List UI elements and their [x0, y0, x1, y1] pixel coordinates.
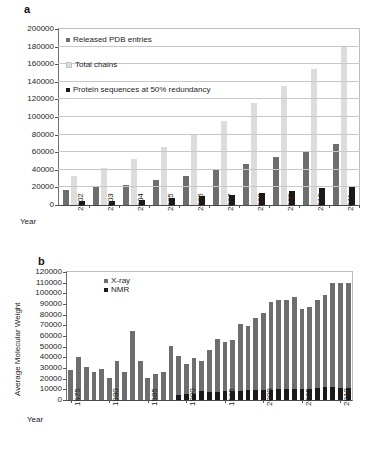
- x-tick-label: 1995: [228, 388, 236, 406]
- panel-b-legend: X-ray NMR: [104, 277, 164, 297]
- x-tick-label: 1975: [74, 388, 82, 406]
- bar-x-ray-1987: [161, 372, 166, 400]
- y-tick-label: 20000: [0, 183, 54, 191]
- y-tick-label: 100000: [0, 113, 54, 121]
- bar-released-pdb-entries-2002: [63, 190, 69, 205]
- y-tick-mark: [63, 315, 66, 316]
- y-tick-mark: [55, 170, 58, 171]
- legend-swatch-icon: [66, 62, 72, 68]
- panel-a-x-axis-name: Year: [20, 218, 36, 226]
- x-tick-label: 2006: [197, 193, 205, 211]
- x-tick-mark: [225, 400, 226, 403]
- y-tick-label: 140000: [0, 78, 54, 86]
- x-tick-mark: [148, 400, 149, 403]
- gridline: [58, 151, 360, 152]
- bar-x-ray-2003: [284, 300, 289, 400]
- y-tick-mark: [55, 47, 58, 48]
- y-tick-label: 110000: [7, 279, 62, 287]
- legend-swatch-icon: [104, 279, 108, 283]
- bar-total-chains-2011: [341, 46, 347, 205]
- y-tick-label: 100000: [7, 289, 62, 297]
- legend-label: Protein sequences at 50% redundancy: [73, 86, 210, 94]
- y-tick-label: 120000: [0, 95, 54, 103]
- legend-label: X-ray: [111, 277, 130, 285]
- bar-nmr-2008: [323, 387, 328, 400]
- x-tick-label: 2009: [287, 193, 295, 211]
- y-tick-mark: [63, 336, 66, 337]
- y-tick-mark: [55, 64, 58, 65]
- bar-nmr-1998: [246, 390, 251, 400]
- x-tick-label: 2010: [343, 388, 351, 406]
- bar-x-ray-2002: [276, 300, 281, 400]
- x-tick-mark: [299, 205, 300, 208]
- y-tick-mark: [63, 283, 66, 284]
- bar-x-ray-1999: [253, 318, 258, 400]
- legend-swatch-icon: [66, 88, 70, 92]
- panel-b-x-axis-name: Year: [27, 416, 43, 424]
- y-tick-mark: [55, 99, 58, 100]
- legend-item-protein-sequences-50: Protein sequences at 50% redundancy: [66, 86, 210, 94]
- y-tick-label: 160000: [0, 60, 54, 68]
- x-tick-mark: [302, 400, 303, 403]
- bar-nmr-2003: [284, 389, 289, 400]
- bar-released-pdb-entries-2004: [123, 185, 129, 205]
- bar-nmr-2009: [330, 387, 335, 400]
- bar-x-ray-2009: [330, 283, 335, 400]
- bar-nmr-2002: [276, 389, 281, 400]
- y-tick-mark: [63, 357, 66, 358]
- panel-a-legend: Released PDB entries Total chains Protei…: [66, 36, 276, 96]
- bar-x-ray-1977: [84, 367, 89, 400]
- bar-released-pdb-entries-2008: [243, 164, 249, 205]
- y-tick-label: 60000: [0, 148, 54, 156]
- y-tick-mark: [55, 205, 58, 206]
- gridline: [58, 186, 360, 187]
- y-tick-label: 0: [0, 201, 54, 209]
- x-tick-label: 1980: [112, 388, 120, 406]
- gridline: [58, 169, 360, 170]
- bar-x-ray-2011: [346, 283, 351, 400]
- bar-x-ray-1984: [138, 361, 143, 400]
- x-tick-mark: [340, 400, 341, 403]
- x-tick-label: 2005: [167, 193, 175, 211]
- y-tick-mark: [63, 304, 66, 305]
- x-tick-mark: [359, 205, 360, 208]
- bar-x-ray-1994: [215, 339, 220, 400]
- x-tick-label: 2010: [317, 193, 325, 211]
- x-tick-label: 2000: [266, 388, 274, 406]
- y-tick-mark: [63, 325, 66, 326]
- y-tick-label: 200000: [0, 25, 54, 33]
- y-tick-label: 80000: [0, 131, 54, 139]
- bar-released-pdb-entries-2011: [333, 144, 339, 205]
- bar-released-pdb-entries-2007: [213, 170, 219, 205]
- x-tick-mark: [209, 205, 210, 208]
- y-tick-label: 40000: [0, 166, 54, 174]
- bar-x-ray-1997: [238, 324, 243, 400]
- y-tick-mark: [63, 379, 66, 380]
- legend-label: Released PDB entries: [73, 36, 152, 44]
- x-tick-label: 2003: [107, 193, 115, 211]
- y-tick-label: 180000: [0, 43, 54, 51]
- x-tick-mark: [239, 205, 240, 208]
- legend-item-x-ray: X-ray: [104, 277, 130, 285]
- bar-nmr-2007: [315, 388, 320, 400]
- x-tick-mark: [329, 205, 330, 208]
- x-tick-mark: [109, 400, 110, 403]
- bar-nmr-1999: [253, 390, 258, 400]
- bar-x-ray-1982: [122, 372, 127, 400]
- legend-label: NMR: [111, 286, 129, 294]
- bar-x-ray-2001: [269, 302, 274, 400]
- bar-x-ray-2008: [323, 295, 328, 400]
- bar-x-ray-1979: [99, 369, 104, 400]
- bar-nmr-1993: [207, 392, 212, 400]
- legend-swatch-icon: [66, 38, 70, 42]
- panel-b-y-axis-label: Average Molecular Weight: [14, 302, 22, 396]
- bar-total-chains-2008: [251, 103, 257, 205]
- bar-released-pdb-entries-2003: [93, 187, 99, 205]
- y-tick-mark: [63, 293, 66, 294]
- x-tick-mark: [89, 205, 90, 208]
- x-tick-mark: [263, 400, 264, 403]
- x-tick-label: 2007: [227, 193, 235, 211]
- bar-released-pdb-entries-2009: [273, 157, 279, 205]
- y-tick-mark: [63, 272, 66, 273]
- y-tick-mark: [63, 389, 66, 390]
